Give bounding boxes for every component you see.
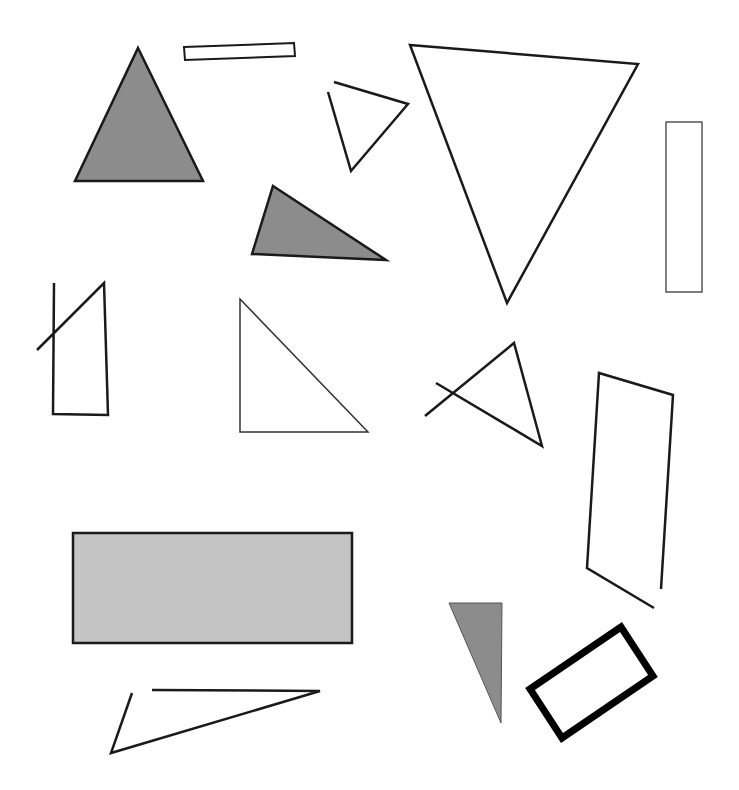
shapes-canvas (0, 0, 739, 790)
light-gray-rectangle (73, 533, 352, 643)
